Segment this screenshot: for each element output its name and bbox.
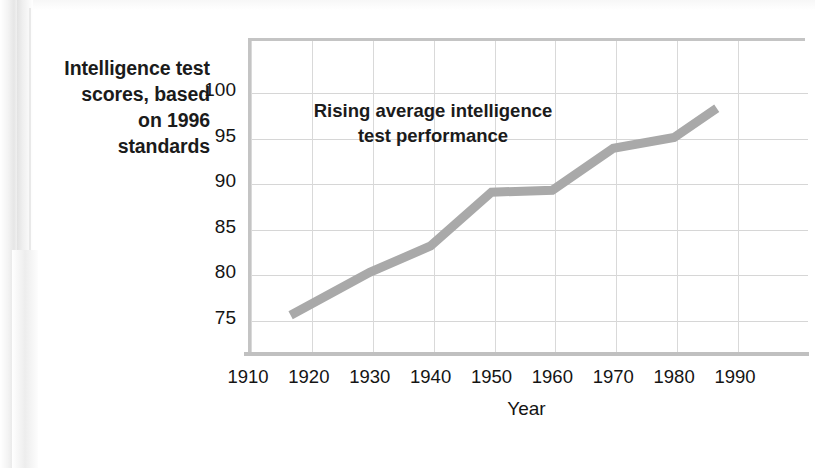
- gridline-vertical: [677, 41, 678, 355]
- gridline-horizontal: [251, 230, 808, 231]
- page-edge-shadow-outer: [0, 0, 20, 468]
- x-axis-tick-label: 1950: [462, 366, 522, 388]
- y-axis-caption-line-1: Intelligence test: [28, 55, 210, 81]
- chart-annotation-line-1: Rising average intelligence: [288, 98, 578, 123]
- gridline-vertical: [495, 41, 496, 355]
- x-axis-tick-label: 1910: [218, 366, 278, 388]
- gridline-vertical: [555, 41, 556, 355]
- chart-annotation: Rising average intelligence test perform…: [288, 98, 578, 148]
- gridline-vertical: [312, 41, 313, 355]
- gridline-horizontal: [251, 184, 808, 185]
- gridline-horizontal: [251, 275, 808, 276]
- x-axis-tick-label: 1920: [279, 366, 339, 388]
- gridline-vertical: [738, 41, 739, 355]
- chart-annotation-line-2: test performance: [288, 123, 578, 148]
- gridline-horizontal: [251, 321, 808, 322]
- x-axis-tick-label: 1930: [340, 366, 400, 388]
- y-axis-tick-label: 95: [180, 125, 236, 147]
- page-corner-shadow: [12, 250, 38, 468]
- gridline-vertical: [251, 41, 252, 355]
- x-axis-tick-label: 1980: [644, 366, 704, 388]
- y-axis-tick-label: 90: [180, 170, 236, 192]
- x-axis-tick-label: 1970: [583, 366, 643, 388]
- y-axis-tick-label: 100: [180, 79, 236, 101]
- x-axis-tick-label: 1960: [522, 366, 582, 388]
- x-axis-tick-label: 1940: [401, 366, 461, 388]
- plot-area: [248, 38, 805, 352]
- gridline-vertical: [434, 41, 435, 355]
- y-axis-tick-label: 80: [180, 261, 236, 283]
- gridline-horizontal: [251, 93, 808, 94]
- y-axis-tick-label: 75: [180, 307, 236, 329]
- chart-page: Intelligence test scores, based on 1996 …: [0, 0, 815, 468]
- x-axis-title: Year: [248, 398, 805, 420]
- x-axis-rule: [244, 352, 809, 356]
- gridline-vertical: [616, 41, 617, 355]
- gridline-vertical: [373, 41, 374, 355]
- y-axis-tick-label: 85: [180, 216, 236, 238]
- x-axis-tick-label: 1990: [705, 366, 765, 388]
- scan-top-fade: [0, 0, 815, 10]
